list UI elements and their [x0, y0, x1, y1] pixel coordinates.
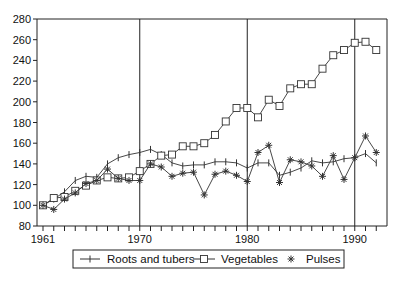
- square-marker-icon: [158, 152, 165, 159]
- square-shape: [190, 143, 197, 150]
- x-axis: 1961197019801990: [31, 226, 376, 245]
- square-marker-icon: [201, 256, 208, 263]
- asterisk-marker-icon: [179, 170, 186, 177]
- square-marker-icon: [190, 143, 197, 150]
- asterisk-marker-icon: [190, 169, 197, 176]
- legend-label: Vegetables: [221, 253, 278, 265]
- series-pulses: [40, 132, 380, 212]
- asterisk-marker-icon: [212, 171, 219, 178]
- y-tick-label: 200: [13, 96, 31, 108]
- square-shape: [104, 174, 111, 181]
- square-marker-icon: [212, 131, 219, 138]
- square-marker-icon: [362, 38, 369, 45]
- asterisk-marker-icon: [265, 142, 272, 149]
- square-shape: [179, 143, 186, 150]
- plot-frame: [37, 19, 387, 226]
- y-tick-label: 160: [13, 137, 31, 149]
- y-tick-label: 220: [13, 75, 31, 87]
- square-shape: [255, 114, 262, 121]
- asterisk-marker-icon: [126, 177, 133, 184]
- asterisk-marker-icon: [115, 175, 122, 182]
- square-shape: [265, 96, 272, 103]
- square-marker-icon: [50, 195, 57, 202]
- x-tick-label: 1990: [343, 233, 367, 245]
- series-line: [43, 136, 376, 209]
- y-tick-label: 100: [13, 199, 31, 211]
- square-marker-icon: [233, 105, 240, 112]
- asterisk-marker-icon: [362, 132, 369, 139]
- asterisk-marker-icon: [83, 180, 90, 187]
- square-marker-icon: [222, 118, 229, 125]
- square-marker-icon: [201, 140, 208, 147]
- asterisk-marker-icon: [288, 256, 295, 263]
- square-shape: [287, 85, 294, 92]
- asterisk-marker-icon: [222, 168, 229, 175]
- asterisk-marker-icon: [276, 179, 283, 186]
- asterisk-marker-icon: [244, 178, 251, 185]
- asterisk-marker-icon: [351, 154, 358, 161]
- asterisk-marker-icon: [330, 152, 337, 159]
- square-marker-icon: [298, 81, 305, 88]
- square-shape: [330, 52, 337, 59]
- y-tick-label: 280: [13, 13, 31, 25]
- line-chart: 80100120140160180200220240260280 1961197…: [0, 0, 400, 285]
- reference-lines: [140, 19, 355, 226]
- y-tick-label: 260: [13, 34, 31, 46]
- square-shape: [373, 47, 380, 54]
- square-marker-icon: [276, 102, 283, 109]
- asterisk-marker-icon: [341, 176, 348, 183]
- square-marker-icon: [319, 65, 326, 72]
- series-vegetables: [40, 38, 380, 209]
- square-shape: [169, 151, 176, 158]
- square-shape: [50, 195, 57, 202]
- square-shape: [212, 131, 219, 138]
- x-tick-label: 1970: [128, 233, 152, 245]
- y-tick-label: 140: [13, 158, 31, 170]
- asterisk-marker-icon: [373, 149, 380, 156]
- square-shape: [244, 105, 251, 112]
- asterisk-marker-icon: [298, 158, 305, 165]
- asterisk-marker-icon: [136, 177, 143, 184]
- legend-label: Roots and tubers: [107, 253, 195, 265]
- asterisk-marker-icon: [201, 191, 208, 198]
- y-axis: 80100120140160180200220240260280: [13, 13, 37, 232]
- square-marker-icon: [169, 151, 176, 158]
- square-marker-icon: [373, 47, 380, 54]
- square-marker-icon: [351, 39, 358, 46]
- asterisk-marker-icon: [61, 196, 68, 203]
- square-marker-icon: [341, 47, 348, 54]
- legend: Roots and tubers Vegetables Pulses: [73, 250, 344, 268]
- square-shape: [308, 81, 315, 88]
- square-marker-icon: [287, 85, 294, 92]
- y-tick-label: 240: [13, 54, 31, 66]
- y-tick-label: 120: [13, 179, 31, 191]
- asterisk-marker-icon: [50, 206, 57, 213]
- asterisk-marker-icon: [233, 172, 240, 179]
- asterisk-marker-icon: [255, 149, 262, 156]
- asterisk-marker-icon: [93, 177, 100, 184]
- square-shape: [362, 38, 369, 45]
- asterisk-marker-icon: [104, 166, 111, 173]
- square-marker-icon: [179, 143, 186, 150]
- square-marker-icon: [136, 168, 143, 175]
- square-marker-icon: [308, 81, 315, 88]
- asterisk-marker-icon: [158, 164, 165, 171]
- y-tick-label: 80: [19, 220, 31, 232]
- square-shape: [319, 65, 326, 72]
- x-tick-label: 1980: [235, 233, 259, 245]
- square-shape: [276, 102, 283, 109]
- square-shape: [341, 47, 348, 54]
- square-shape: [136, 168, 143, 175]
- asterisk-marker-icon: [288, 256, 295, 263]
- square-shape: [201, 140, 208, 147]
- square-marker-icon: [255, 114, 262, 121]
- square-marker-icon: [104, 174, 111, 181]
- asterisk-marker-icon: [169, 173, 176, 180]
- square-shape: [222, 118, 229, 125]
- legend-label: Pulses: [306, 253, 341, 265]
- asterisk-marker-icon: [72, 189, 79, 196]
- asterisk-marker-icon: [147, 160, 154, 167]
- series-group: [40, 38, 380, 213]
- square-marker-icon: [265, 96, 272, 103]
- x-tick-label: 1961: [31, 233, 55, 245]
